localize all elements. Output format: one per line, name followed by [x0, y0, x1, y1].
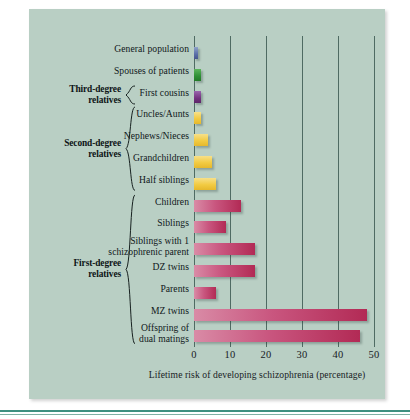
chart-row: Children [29, 197, 385, 219]
plot-area: 01020304050General populationSpouses of … [29, 9, 385, 399]
bar-wrapper [194, 47, 198, 59]
row-label: Spouses of patients [49, 66, 189, 77]
row-label: Siblings [49, 218, 189, 229]
bar[interactable] [194, 243, 255, 255]
group-brace-icon [125, 85, 136, 105]
chart-panel: 01020304050General populationSpouses of … [29, 9, 385, 399]
bar[interactable] [194, 309, 367, 321]
bar-wrapper [194, 221, 226, 233]
row-label: Parents [49, 284, 189, 295]
bar[interactable] [194, 287, 216, 299]
bar-wrapper [194, 156, 212, 168]
bar-wrapper [194, 265, 255, 277]
bar[interactable] [194, 156, 212, 168]
bar-wrapper [194, 243, 255, 255]
bar-wrapper [194, 69, 201, 81]
bar[interactable] [194, 178, 216, 190]
bar-wrapper [194, 134, 208, 146]
bar[interactable] [194, 47, 198, 59]
x-tick-label-0: 0 [179, 349, 209, 360]
chart-row: Uncles/Aunts [29, 109, 385, 131]
bar[interactable] [194, 330, 360, 342]
x-tick-label-20: 20 [251, 349, 281, 360]
bar[interactable] [194, 200, 241, 212]
bar[interactable] [194, 265, 255, 277]
x-tick-label-10: 10 [215, 349, 245, 360]
x-tick-label-50: 50 [359, 349, 389, 360]
bar[interactable] [194, 134, 208, 146]
chart-row: General population [29, 44, 385, 66]
group-brace-icon [125, 106, 136, 191]
bar-wrapper [194, 287, 216, 299]
row-label: Offspring ofdual matings [49, 323, 189, 344]
bar[interactable] [194, 91, 201, 103]
group-label: First-degreerelatives [35, 258, 121, 280]
x-tick-label-40: 40 [323, 349, 353, 360]
bar-wrapper [194, 91, 201, 103]
row-label: Uncles/Aunts [49, 109, 189, 120]
bar[interactable] [194, 69, 201, 81]
row-label: MZ twins [49, 306, 189, 317]
bar-wrapper [194, 309, 367, 321]
x-axis-title: Lifetime risk of developing schizophreni… [129, 369, 385, 380]
footer-rule-secondary [0, 414, 410, 415]
row-label: Half siblings [49, 175, 189, 186]
group-brace-icon [125, 194, 136, 345]
chart-row: Offspring ofdual matings [29, 327, 385, 349]
bar-wrapper [194, 178, 216, 190]
group-label: Third-degreerelatives [35, 84, 121, 106]
group-label: Second-degreerelatives [35, 138, 121, 160]
figure-container: 01020304050General populationSpouses of … [0, 0, 410, 419]
bar[interactable] [194, 112, 201, 124]
bar[interactable] [194, 221, 226, 233]
row-label: Siblings with 1schizophrenic parent [49, 236, 189, 257]
row-label: Children [49, 197, 189, 208]
row-label: General population [49, 44, 189, 55]
chart-row: Parents [29, 284, 385, 306]
bar-wrapper [194, 200, 241, 212]
bar-wrapper [194, 330, 360, 342]
footer-rule [0, 410, 410, 412]
bar-wrapper [194, 112, 201, 124]
x-tick-label-30: 30 [287, 349, 317, 360]
chart-row: Half siblings [29, 175, 385, 197]
